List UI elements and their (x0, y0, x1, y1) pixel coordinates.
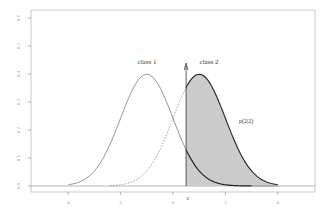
x-tick-label: 2 (119, 200, 122, 205)
x-tick-label: 2 (224, 200, 227, 205)
y-tick-label: 0.0 (16, 182, 21, 189)
plot-frame (31, 10, 315, 192)
y-tick-label: 0.2 (16, 126, 21, 133)
y-tick-label: 0.3 (16, 98, 21, 105)
class2-dashed-curve (110, 87, 186, 185)
x-tick-label: 4 (67, 200, 70, 205)
shaded-region-p22 (186, 74, 278, 186)
annotation-class-1: class 1 (138, 58, 157, 66)
y-tick-label: 0.1 (16, 154, 21, 161)
y-tick-label: 0.5 (16, 42, 21, 49)
annotation-class-2: class 2 (200, 58, 219, 66)
chart-svg: 0.00.10.20.30.40.50.642024 class 1class … (0, 0, 327, 214)
annotation-c: c (187, 195, 190, 201)
annotation-p-2-2-: p(2|2) (239, 118, 253, 125)
x-tick-label: 4 (277, 200, 280, 205)
chart: 0.00.10.20.30.40.50.642024 class 1class … (0, 0, 327, 214)
plot-box (31, 10, 315, 192)
x-tick-label: 0 (172, 200, 175, 205)
shaded-area (186, 74, 278, 186)
y-tick-label: 0.6 (16, 14, 21, 21)
y-tick-label: 0.4 (16, 70, 21, 77)
